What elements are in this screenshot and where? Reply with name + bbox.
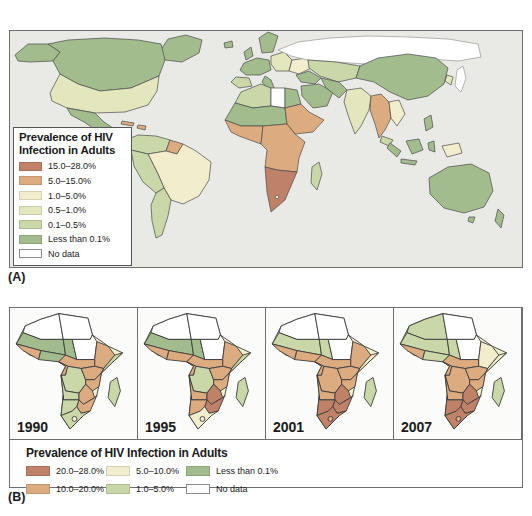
africa-map-2001: 2001 — [265, 307, 394, 440]
legend-item: Less than 0.1% — [19, 234, 128, 244]
region-borneo — [406, 139, 423, 154]
region-japan — [455, 66, 466, 92]
region-lesotho — [72, 416, 77, 421]
panel-b-label: (B) — [8, 490, 25, 504]
legend-item: 0.1–0.5% — [19, 220, 128, 230]
year-label: 2007 — [401, 419, 432, 435]
region-libya-egypt — [187, 314, 221, 340]
legend-range-label: 1.0–5.0% — [136, 484, 174, 494]
africa-map-1995: 1995 — [137, 307, 266, 440]
legend-swatch — [19, 235, 42, 244]
region-lesotho — [275, 195, 279, 199]
region-philippines — [424, 115, 433, 131]
legend-item: 20.0–28.0% — [26, 464, 106, 477]
africa-regions — [16, 314, 122, 429]
legend-item: 1.0–5.0% — [106, 482, 186, 495]
region-indochina — [389, 100, 405, 126]
region-greenland — [160, 35, 202, 62]
africa-map-row: 1990 1995 — [10, 308, 522, 440]
legend-range-label: No data — [48, 249, 80, 259]
africa-timeseries-panel: 1990 1995 — [9, 307, 523, 488]
region-lesotho — [456, 416, 461, 421]
region-scandinavia — [259, 32, 278, 53]
region-southern-africa — [265, 167, 297, 212]
region-ethiopia — [479, 342, 499, 369]
region-madagascar — [236, 377, 248, 406]
region-spain — [231, 77, 252, 88]
region-korea — [445, 75, 453, 85]
region-west-europe — [240, 58, 271, 75]
legend-range-label: 5.0–15.0% — [48, 176, 91, 186]
africa-map-1990: 1990 — [9, 307, 138, 440]
region-libya-egypt — [59, 314, 93, 340]
region-ethiopia — [351, 342, 371, 369]
region-madagascar — [311, 162, 322, 190]
africa-regions — [144, 314, 250, 429]
legend-range-label: 15.0–28.0% — [48, 161, 96, 171]
region-tasmania — [468, 217, 475, 223]
legend-swatch — [186, 466, 210, 476]
legend-swatch — [19, 176, 42, 185]
legend-swatch — [186, 484, 210, 494]
legend-item: No data — [19, 249, 128, 259]
world-legend: Prevalence of HIV Infection in Adults 15… — [13, 127, 132, 266]
year-label: 1990 — [17, 419, 48, 435]
legend-range-label: Less than 0.1% — [48, 234, 110, 244]
region-ethiopia — [95, 342, 115, 369]
legend-range-label: No data — [216, 484, 248, 494]
legend-title: Prevalence of HIV Infection in Adults — [19, 131, 128, 157]
region-iceland — [224, 41, 233, 48]
legend-item: 15.0–28.0% — [19, 161, 128, 171]
legend-item: 10.0–20.0% — [26, 482, 106, 495]
legend-range-label: 1.0–5.0% — [48, 191, 86, 201]
legend-swatch — [19, 162, 42, 171]
africa-map — [270, 310, 382, 436]
region-sulawesi — [428, 141, 435, 152]
legend-swatch — [19, 191, 42, 200]
region-lesotho — [328, 416, 333, 421]
region-lesotho — [200, 416, 205, 421]
legend-swatch — [106, 466, 130, 476]
region-hispaniola — [137, 125, 146, 130]
legend-range-label: 0.5–1.0% — [48, 205, 86, 215]
region-new-zealand — [495, 209, 504, 228]
legend-range-label: 20.0–28.0% — [56, 466, 104, 476]
legend-range-label: 0.1–0.5% — [48, 220, 86, 230]
africa-map — [398, 310, 510, 436]
region-sumatra — [387, 143, 401, 157]
legend-item: 5.0–10.0% — [106, 464, 186, 477]
region-ethiopia — [223, 342, 243, 369]
africa-map — [142, 310, 254, 436]
legend-title: Prevalence of HIV Infection in Adults — [26, 446, 522, 460]
africa-map — [14, 310, 126, 436]
legend-swatch — [19, 249, 42, 258]
world-map-panel: Prevalence of HIV Infection in Adults 15… — [9, 30, 523, 268]
legend-swatch — [106, 484, 130, 494]
legend-item: No data — [186, 482, 266, 495]
legend-item: 0.5–1.0% — [19, 205, 128, 215]
region-madagascar — [364, 377, 376, 406]
africa-regions — [272, 314, 378, 429]
region-india — [344, 88, 371, 134]
africa-regions — [400, 314, 506, 429]
region-argentina-chile — [151, 188, 171, 238]
region-java — [401, 159, 417, 165]
region-libya-egypt — [443, 314, 477, 340]
legend-item: 5.0–15.0% — [19, 176, 128, 186]
region-cuba — [121, 121, 134, 126]
africa-legend: Prevalence of HIV Infection in Adults 20… — [10, 440, 522, 495]
legend-grid: 20.0–28.0% 10.0–20.0% 5.0–10.0% 1.0–5.0%… — [26, 464, 522, 495]
legend-swatch — [19, 220, 42, 229]
legend-item: 1.0–5.0% — [19, 191, 128, 201]
region-madagascar — [108, 377, 120, 406]
legend-range-label: Less than 0.1% — [216, 466, 278, 476]
region-uk — [244, 47, 253, 60]
legend-swatch — [26, 466, 50, 476]
year-label: 1995 — [145, 419, 176, 435]
region-madagascar — [492, 377, 504, 406]
legend-item: Less than 0.1% — [186, 464, 266, 477]
region-myanmar-thailand — [370, 94, 391, 138]
year-label: 2001 — [273, 419, 304, 435]
legend-range-label: 5.0–10.0% — [136, 466, 179, 476]
panel-a-label: (A) — [8, 270, 25, 284]
